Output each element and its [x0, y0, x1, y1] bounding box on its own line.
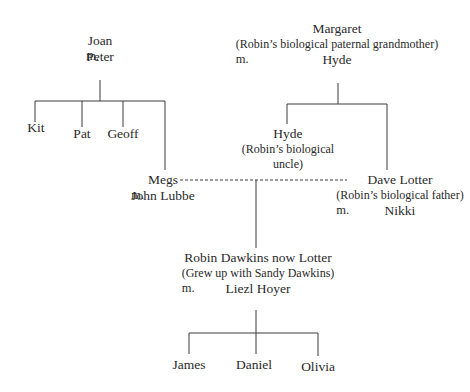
james-name: James	[173, 357, 206, 373]
pat-name: Pat	[73, 126, 90, 142]
megs-name: Megs	[131, 172, 194, 188]
daniel-name: Daniel	[236, 357, 272, 373]
hyde-uncle-name: Hyde	[242, 126, 334, 142]
marriage-label: m.	[236, 52, 249, 67]
marriage-label: m.	[336, 203, 349, 218]
megs-john-couple: Megs m. John Lubbe	[131, 172, 194, 204]
olivia-name: Olivia	[301, 359, 335, 375]
margaret-hyde-couple: Margaret (Robin’s biological paternal gr…	[236, 21, 438, 68]
marriage-label: m.	[86, 49, 99, 64]
hyde-uncle-note-line2: uncle)	[242, 157, 334, 172]
joan-peter-couple: Joan m. Peter	[86, 33, 114, 65]
marriage-label: m.	[182, 281, 195, 296]
marriage-label: m.	[131, 188, 144, 203]
nikki-name: Nikki	[336, 203, 463, 219]
geoff-name: Geoff	[107, 126, 138, 142]
robin-name: Robin Dawkins now Lotter	[182, 250, 335, 266]
margaret-note: (Robin’s biological paternal grandmother…	[236, 37, 438, 52]
dave-note: (Robin’s biological father)	[336, 188, 463, 203]
joan-name: Joan	[86, 33, 114, 49]
hyde-senior-name: Hyde	[236, 52, 438, 68]
dave-nikki-couple: Dave Lotter (Robin’s biological father) …	[336, 172, 463, 219]
hyde-uncle-note-line1: (Robin’s biological	[242, 142, 334, 157]
robin-note: (Grew up with Sandy Dawkins)	[182, 266, 335, 281]
kit-name: Kit	[27, 120, 44, 136]
robin-liezl-couple: Robin Dawkins now Lotter (Grew up with S…	[182, 250, 335, 297]
liezl-hoyer-name: Liezl Hoyer	[182, 281, 335, 297]
dave-lotter-name: Dave Lotter	[336, 172, 463, 188]
hyde-uncle-node: Hyde (Robin’s biological uncle)	[242, 126, 334, 172]
margaret-name: Margaret	[236, 21, 438, 37]
